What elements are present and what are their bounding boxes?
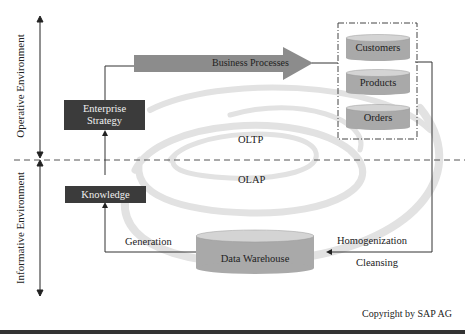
knowledge-box: Knowledge xyxy=(65,186,146,203)
generation-label: Generation xyxy=(125,236,172,247)
informative-environment-label: Informative Environment xyxy=(14,168,26,288)
olap-label: OLAP xyxy=(238,174,265,185)
enterprise-strategy-line2: Strategy xyxy=(87,115,122,127)
operative-environment-label: Operative Environment xyxy=(14,26,26,146)
enterprise-strategy-line1: Enterprise xyxy=(83,103,126,115)
business-processes-label: Business Processes xyxy=(212,57,289,68)
data-warehouse-label: Data Warehouse xyxy=(196,253,314,264)
orders-label: Orders xyxy=(346,112,410,123)
bottom-rule xyxy=(0,330,465,334)
products-label: Products xyxy=(346,77,410,88)
copyright-text: Copyright by SAP AG xyxy=(362,308,452,319)
enterprise-strategy-box: Enterprise Strategy xyxy=(64,100,145,130)
homogenization-label: Homogenization xyxy=(337,235,407,246)
oltp-label: OLTP xyxy=(238,134,263,145)
customers-label: Customers xyxy=(346,42,410,53)
cleansing-label: Cleansing xyxy=(356,257,398,268)
environment-axis xyxy=(37,16,43,296)
data-warehouse-db-icon xyxy=(196,230,314,274)
